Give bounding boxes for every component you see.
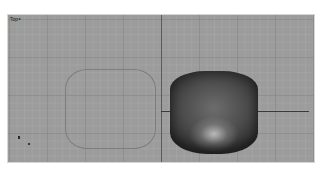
viewport-title: Top [10,16,18,22]
y-axis-line [161,15,162,162]
dropdown-arrow-icon: ▸ [19,16,21,22]
top-viewport[interactable]: Top ▸ [7,14,315,163]
axis-gizmo-icon [16,133,36,153]
wireframe-rounded-square[interactable] [65,69,156,149]
page: Top ▸ [0,0,326,174]
x-axis-marker [28,143,30,145]
viewport-title-menu[interactable]: Top ▸ [10,16,21,22]
shaded-pillow-surface[interactable] [170,71,258,154]
y-axis-marker [18,136,20,139]
